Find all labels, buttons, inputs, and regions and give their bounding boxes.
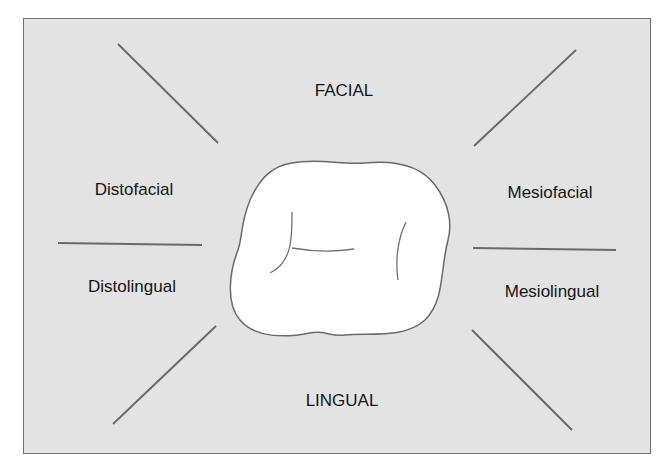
divider-line-upper-right [474, 50, 576, 146]
label-distofacial: Distofacial [95, 180, 173, 200]
tooth-outline [230, 161, 449, 336]
label-lingual: LINGUAL [306, 391, 379, 411]
divider-line-left [58, 243, 202, 245]
label-facial: FACIAL [315, 81, 374, 101]
divider-line-lower-left [113, 326, 216, 424]
divider-line-upper-left [118, 44, 218, 143]
label-distolingual: Distolingual [88, 277, 176, 297]
divider-line-lower-right [472, 330, 572, 430]
label-mesiolingual: Mesiolingual [505, 282, 600, 302]
divider-line-right [473, 248, 616, 250]
label-mesiofacial: Mesiofacial [507, 183, 592, 203]
